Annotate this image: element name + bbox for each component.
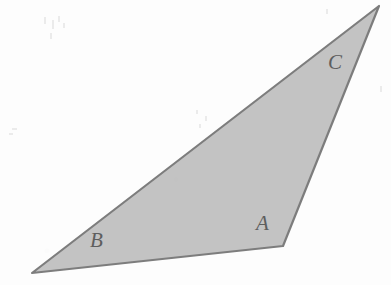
figure-canvas: A B C (0, 0, 391, 285)
scan-artifact (326, 9, 328, 14)
scan-artifact (52, 20, 54, 29)
vertex-label-b: B (90, 228, 103, 253)
vertex-label-c: C (328, 50, 343, 75)
scan-artifact (196, 110, 198, 114)
scan-artifact (199, 124, 201, 128)
scan-artifact (12, 128, 17, 130)
scan-artifact (380, 86, 382, 92)
scan-artifact (63, 23, 65, 28)
vertex-label-a: A (256, 211, 269, 236)
triangle-polygon (32, 6, 379, 273)
scan-artifact (9, 133, 13, 135)
scan-artifact (44, 17, 46, 24)
triangle-figure (0, 0, 391, 285)
scan-artifact (58, 16, 60, 22)
scan-artifact (50, 33, 52, 39)
scan-artifact (205, 116, 207, 121)
